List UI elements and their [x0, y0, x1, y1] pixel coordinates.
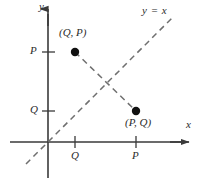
coordinate-figure: y x P Q Q P (Q, P) (P, Q) y = x [0, 0, 205, 188]
x-tick-label-P: P [132, 150, 139, 161]
point-P-Q [132, 107, 140, 115]
y-tick-label-P: P [30, 45, 37, 56]
x-axis-label: x [186, 119, 191, 130]
point-label-P-Q: (P, Q) [125, 117, 151, 128]
point-Q-P [71, 48, 79, 56]
point-label-Q-P: (Q, P) [59, 27, 87, 38]
connector-line-between-points [75, 52, 136, 111]
identity-line-label: y = x [142, 5, 167, 16]
x-tick-label-Q: Q [71, 150, 79, 161]
y-tick-label-Q: Q [30, 104, 38, 115]
y-axis-label: y [39, 1, 44, 12]
figure-canvas [0, 0, 205, 188]
